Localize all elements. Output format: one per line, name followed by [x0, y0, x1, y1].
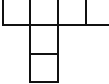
- net-square-r1-c1: [30, 25, 58, 54]
- net-square-r0-c1: [30, 0, 58, 25]
- net-square-r0-c2: [58, 0, 86, 25]
- net-square-r0-c0: [3, 0, 30, 25]
- net-square-r0-c3: [86, 0, 109, 25]
- cube-net-diagram: [0, 0, 109, 84]
- net-square-r2-c1: [30, 54, 58, 82]
